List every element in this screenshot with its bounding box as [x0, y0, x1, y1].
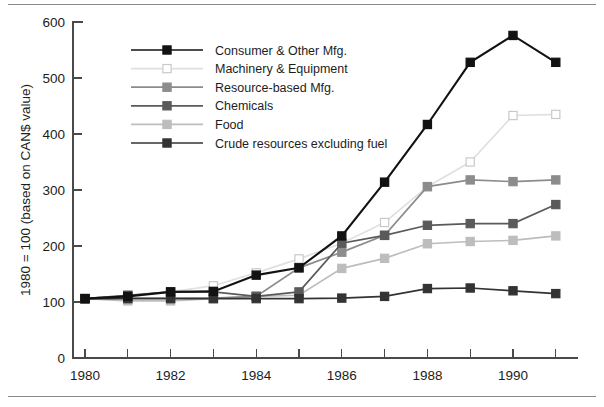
- legend-marker: [163, 102, 171, 110]
- data-point-marker: [552, 232, 560, 240]
- x-tick-label: 1980: [70, 368, 100, 383]
- data-point-marker: [466, 176, 474, 184]
- data-point-marker: [124, 292, 132, 300]
- series-line: [85, 180, 556, 299]
- x-tick-label: 1988: [412, 368, 442, 383]
- data-point-marker: [381, 254, 389, 262]
- y-tick-label: 500: [42, 71, 65, 86]
- data-point-marker: [295, 264, 303, 272]
- legend-label: Consumer & Other Mfg.: [215, 44, 347, 58]
- data-point-marker: [381, 231, 389, 239]
- data-point-marker: [423, 120, 431, 128]
- legend-label: Food: [215, 118, 244, 132]
- legend-marker: [163, 65, 171, 73]
- legend-label: Machinery & Equipment: [215, 62, 348, 76]
- legend-item-resource-based-mfg[interactable]: Resource-based Mfg.: [131, 81, 335, 95]
- data-point-marker: [552, 110, 560, 118]
- legend-marker: [163, 83, 171, 91]
- y-tick-label: 0: [57, 351, 65, 366]
- x-tick-label: 1982: [156, 368, 186, 383]
- x-tick-labels: 198019821984198619881990: [70, 368, 528, 383]
- data-point-marker: [381, 218, 389, 226]
- legend-item-food[interactable]: Food: [131, 118, 244, 132]
- data-point-marker: [466, 220, 474, 228]
- data-point-marker: [466, 237, 474, 245]
- chart-figure: 0100200300400500600 19801982198419861988…: [0, 0, 604, 407]
- legend-marker: [163, 120, 171, 128]
- legend-item-crude-resources-excluding-fuel[interactable]: Crude resources excluding fuel: [131, 137, 387, 151]
- legend-marker: [163, 139, 171, 147]
- data-point-marker: [252, 271, 260, 279]
- y-tick-labels: 0100200300400500600: [42, 15, 65, 366]
- y-tick-label: 200: [42, 239, 65, 254]
- data-point-marker: [466, 284, 474, 292]
- data-point-marker: [381, 292, 389, 300]
- data-point-marker: [295, 255, 303, 263]
- legend-label: Chemicals: [215, 99, 273, 113]
- legend-label: Crude resources excluding fuel: [215, 137, 387, 151]
- data-point-marker: [423, 240, 431, 248]
- y-axis-title: 1980 = 100 (based on CAN$ value): [18, 84, 33, 296]
- data-point-marker: [466, 58, 474, 66]
- legend-item-machinery-equipment[interactable]: Machinery & Equipment: [131, 62, 348, 76]
- data-point-marker: [338, 232, 346, 240]
- data-point-marker: [423, 284, 431, 292]
- data-point-marker: [552, 200, 560, 208]
- y-tick-label: 400: [42, 127, 65, 142]
- line-chart: 0100200300400500600 19801982198419861988…: [0, 0, 604, 407]
- x-tick-label: 1990: [498, 368, 528, 383]
- data-point-marker: [423, 221, 431, 229]
- legend-marker: [163, 46, 171, 54]
- data-point-marker: [338, 264, 346, 272]
- data-point-marker: [552, 58, 560, 66]
- data-point-marker: [509, 111, 517, 119]
- y-tick-label: 100: [42, 295, 65, 310]
- y-tick-label: 300: [42, 183, 65, 198]
- data-point-marker: [381, 178, 389, 186]
- series-resource-based-mfg: [81, 176, 560, 303]
- data-point-marker: [466, 158, 474, 166]
- x-tick-label: 1986: [327, 368, 357, 383]
- data-point-marker: [338, 248, 346, 256]
- data-point-marker: [423, 183, 431, 191]
- data-point-marker: [552, 176, 560, 184]
- data-point-marker: [509, 287, 517, 295]
- legend-label: Resource-based Mfg.: [215, 81, 335, 95]
- data-point-marker: [252, 295, 260, 303]
- data-point-marker: [552, 290, 560, 298]
- data-point-marker: [509, 178, 517, 186]
- data-point-marker: [338, 294, 346, 302]
- data-point-marker: [81, 295, 89, 303]
- data-point-marker: [509, 236, 517, 244]
- x-tick-label: 1984: [241, 368, 272, 383]
- data-point-marker: [509, 31, 517, 39]
- data-point-marker: [167, 288, 175, 296]
- chart-legend: Consumer & Other Mfg.Machinery & Equipme…: [131, 44, 387, 151]
- legend-item-chemicals[interactable]: Chemicals: [131, 99, 273, 113]
- y-tick-label: 600: [42, 15, 65, 30]
- data-point-marker: [209, 287, 217, 295]
- data-point-marker: [295, 295, 303, 303]
- data-point-marker: [509, 220, 517, 228]
- legend-item-consumer-other-mfg[interactable]: Consumer & Other Mfg.: [131, 44, 347, 58]
